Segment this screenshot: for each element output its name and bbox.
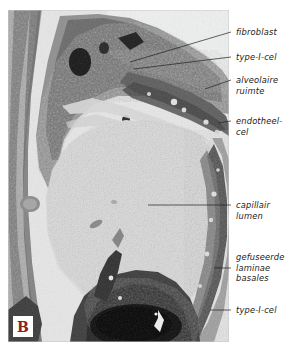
- panel-letter: B: [17, 320, 29, 334]
- annotation-label-type-i-cel-lower: type-I-cel: [236, 305, 277, 316]
- annotation-label-alveolaire-ruimte: alveolaire ruimte: [236, 75, 278, 96]
- annotation-label-capillair-lumen: capillair lumen: [236, 200, 270, 221]
- micrograph-canvas: [8, 10, 229, 342]
- annotation-label-fibroblast: fibroblast: [236, 27, 277, 38]
- figure-panel: B fibroblast type-I-cel alveolaire ruimt…: [0, 0, 300, 349]
- panel-letter-badge: B: [13, 316, 33, 337]
- electron-micrograph: [8, 10, 229, 342]
- film-grain-overlay: [8, 10, 229, 342]
- annotation-label-gefuseerde-laminae-basales: gefuseerde laminae basales: [236, 252, 285, 284]
- annotation-label-type-i-cel-upper: type-I-cel: [236, 52, 277, 63]
- annotation-label-endotheel-cel: endotheel- cel: [236, 116, 282, 137]
